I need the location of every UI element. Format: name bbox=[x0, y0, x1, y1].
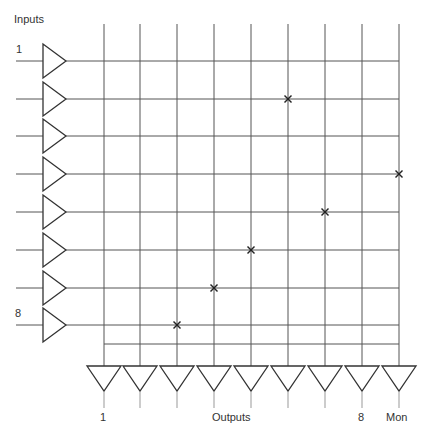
input-buffer-triangle-icon bbox=[43, 119, 66, 153]
output-buffer-triangle-icon bbox=[271, 366, 305, 391]
output-buffer-triangle-icon bbox=[197, 366, 231, 391]
output-buffer-triangle-icon bbox=[308, 366, 342, 391]
output-buffer-triangle-icon bbox=[123, 366, 157, 391]
output-buffer-triangle-icon bbox=[160, 366, 194, 391]
matrix-svg bbox=[0, 0, 426, 434]
input-buffer-triangle-icon bbox=[43, 308, 66, 342]
monitor-output-label: Mon bbox=[386, 411, 407, 423]
inputs-title: Inputs bbox=[14, 13, 44, 25]
output-buffer-triangle-icon bbox=[87, 366, 121, 391]
output-label-first: 1 bbox=[100, 411, 106, 423]
output-buffer-triangle-icon bbox=[345, 366, 379, 391]
input-buffer-triangle-icon bbox=[43, 233, 66, 267]
input-buffer-triangle-icon bbox=[43, 157, 66, 191]
input-buffer-triangle-icon bbox=[43, 82, 66, 116]
outputs-title: Outputs bbox=[212, 411, 251, 423]
input-label-first: 1 bbox=[16, 43, 22, 55]
input-buffer-triangle-icon bbox=[43, 44, 66, 78]
input-label-last: 8 bbox=[15, 307, 21, 319]
output-buffer-triangle-icon bbox=[382, 366, 416, 391]
input-buffer-triangle-icon bbox=[43, 271, 66, 305]
output-buffer-triangle-icon bbox=[234, 366, 268, 391]
input-buffer-triangle-icon bbox=[43, 195, 66, 229]
output-label-last: 8 bbox=[358, 411, 364, 423]
